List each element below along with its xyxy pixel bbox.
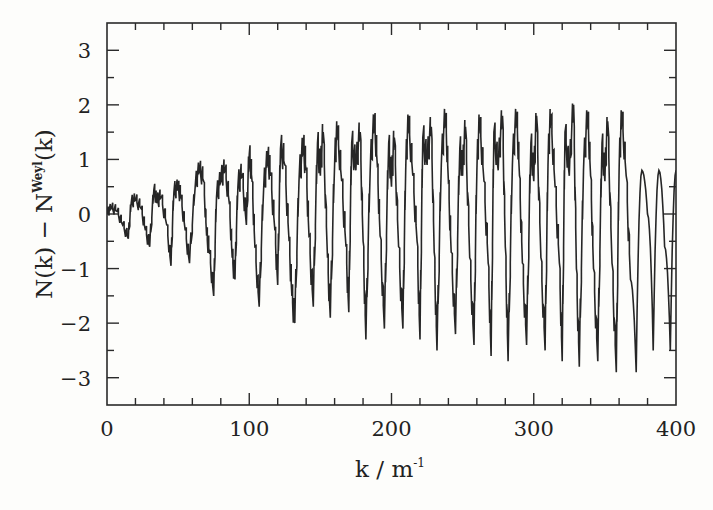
y-tick-label: 1	[78, 148, 91, 172]
x-tick-label: 300	[514, 417, 554, 441]
y-axis-tick-labels: −3−2−10123	[60, 39, 91, 390]
y-tick-label: −2	[60, 312, 91, 336]
x-axis-tick-labels: 0100200300400	[100, 417, 696, 441]
chart-svg: 0100200300400 −3−2−10123 k / m-1 N(k) − …	[0, 0, 713, 510]
x-tick-label: 100	[229, 417, 269, 441]
data-series-line	[107, 104, 676, 373]
y-tick-label: −3	[60, 367, 91, 391]
x-tick-label: 400	[656, 417, 696, 441]
y-tick-label: 0	[78, 203, 91, 227]
x-axis-label: k / m-1	[355, 456, 425, 482]
y-axis-label: N(k) − NWeyl(k)	[31, 129, 57, 299]
x-tick-label: 0	[100, 417, 113, 441]
x-tick-label: 200	[371, 417, 411, 441]
y-tick-label: 3	[78, 39, 91, 63]
x-axis-ticks	[135, 23, 647, 405]
y-tick-label: −1	[60, 258, 91, 282]
y-tick-label: 2	[78, 94, 91, 118]
